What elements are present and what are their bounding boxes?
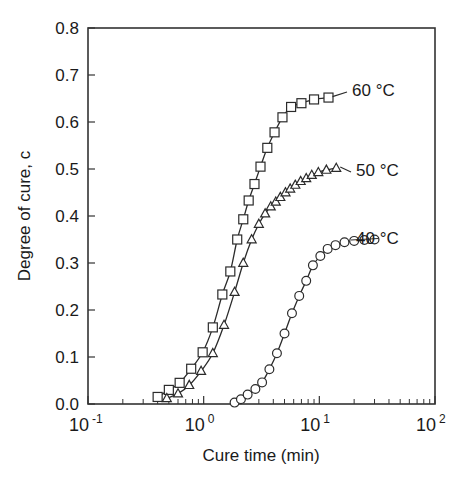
y-axis-title: Degree of cure, c [15,150,34,281]
chart-figure: 0.00.10.20.30.40.50.60.70.8 10-110010110… [0,0,465,479]
data-point-60c-13 [263,143,272,152]
data-point-40c-2 [243,390,252,399]
data-point-60c-8 [233,235,242,244]
data-point-40c-15 [340,238,349,247]
data-point-40c-14 [331,241,340,250]
y-tick-label-0.2: 0.2 [55,301,79,320]
x-tick-exponent-3: 2 [439,412,446,426]
data-point-60c-14 [270,128,279,137]
data-point-60c-15 [278,113,287,122]
data-point-60c-3 [187,364,196,373]
series-label-60c: 60 °C [352,81,395,100]
data-point-60c-11 [250,180,259,189]
data-point-60c-0 [153,392,162,401]
x-tick-mantissa-1: 10 [185,415,205,435]
data-point-60c-12 [256,162,265,171]
data-point-60c-19 [324,93,333,102]
data-point-40c-4 [258,378,267,387]
y-tick-label-0.7: 0.7 [55,66,79,85]
data-point-40c-3 [251,385,260,394]
data-point-60c-18 [310,95,319,104]
y-tick-label-0.8: 0.8 [55,19,79,38]
cure-kinetics-chart: 0.00.10.20.30.40.50.60.70.8 10-110010110… [0,0,465,479]
data-point-60c-5 [208,323,217,332]
data-point-60c-4 [198,348,207,357]
data-point-60c-1 [164,385,173,394]
data-point-40c-11 [309,261,318,270]
data-point-60c-9 [239,215,248,224]
x-tick-mantissa-2: 10 [300,415,320,435]
x-tick-exponent-1: 0 [208,412,215,426]
x-tick-exponent-2: 1 [323,412,330,426]
y-tick-label-0.0: 0.0 [55,395,79,414]
data-point-40c-10 [302,276,311,285]
y-tick-label-0.6: 0.6 [55,113,79,132]
y-tick-label-0.4: 0.4 [55,207,79,226]
y-tick-label-0.3: 0.3 [55,254,79,273]
data-point-40c-5 [265,365,274,374]
data-point-60c-7 [226,267,235,276]
x-axis-title: Cure time (min) [202,446,319,465]
y-axis-tick-labels: 0.00.10.20.30.40.50.60.70.8 [55,19,79,414]
data-point-60c-10 [244,196,253,205]
y-tick-label-0.1: 0.1 [55,348,79,367]
data-point-40c-12 [316,252,325,261]
data-point-60c-6 [218,290,227,299]
data-point-60c-17 [297,99,306,108]
y-tick-label-0.5: 0.5 [55,160,79,179]
data-point-40c-7 [280,329,289,338]
x-tick-mantissa-0: 10 [69,415,89,435]
data-point-60c-16 [287,102,296,111]
data-point-40c-9 [295,292,304,301]
data-point-60c-2 [175,378,184,387]
series-label-40c: 40 °C [356,229,399,248]
data-point-40c-6 [273,349,282,358]
series-label-50c: 50 °C [356,161,399,180]
data-point-40c-8 [288,309,297,318]
x-tick-exponent-0: -1 [92,412,103,426]
x-tick-mantissa-3: 10 [416,415,436,435]
